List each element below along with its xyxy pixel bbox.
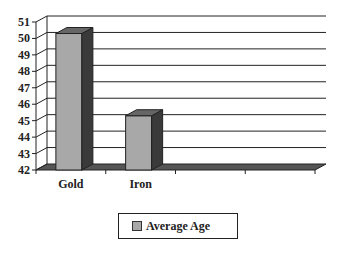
y-tick-label: 43: [18, 147, 30, 161]
gridline-depth: [36, 32, 47, 38]
y-tick-label: 47: [18, 81, 30, 95]
gridline-depth: [36, 131, 47, 137]
legend-swatch: [132, 221, 142, 231]
bar-front: [126, 116, 152, 170]
gridline-depth: [36, 65, 47, 71]
bar-gold: [56, 28, 93, 170]
x-category-label: Gold: [58, 177, 84, 191]
x-axis: [36, 170, 315, 174]
chart: 42434445464748495051 GoldIron: [0, 0, 339, 200]
y-tick-label: 44: [18, 130, 30, 144]
y-tick-label: 46: [18, 97, 30, 111]
gridline-depth: [36, 115, 47, 121]
y-tick-label: 48: [18, 64, 30, 78]
gridline-depth: [36, 148, 47, 154]
gridline-depth: [36, 16, 47, 22]
gridline-depth: [36, 98, 47, 104]
bar-iron: [126, 110, 163, 170]
bar-side: [82, 28, 93, 170]
y-tick-label: 49: [18, 48, 30, 62]
bar-side: [152, 110, 163, 170]
bar-front: [56, 34, 82, 170]
y-tick-label: 42: [18, 163, 30, 177]
legend: Average Age: [118, 213, 238, 239]
legend-label: Average Age: [146, 219, 210, 234]
y-tick-label: 45: [18, 114, 30, 128]
y-tick-label: 50: [18, 31, 30, 45]
y-tick-labels: 42434445464748495051: [18, 15, 30, 177]
y-axis: [32, 16, 47, 170]
x-category-label: Iron: [129, 177, 152, 191]
x-category-labels: GoldIron: [58, 177, 152, 191]
gridline-depth: [36, 82, 47, 88]
y-tick-label: 51: [18, 15, 30, 29]
gridline-depth: [36, 49, 47, 55]
